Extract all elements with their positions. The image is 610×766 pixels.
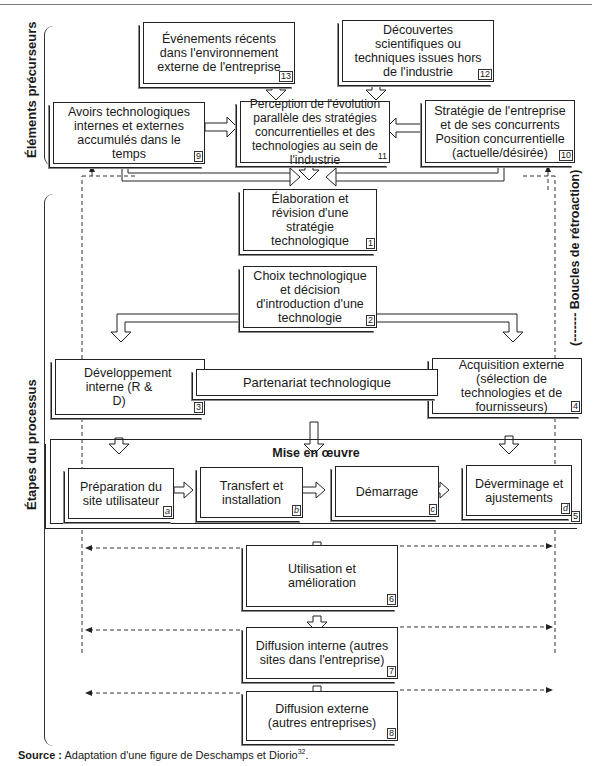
box-company-strategy: Stratégie de l'entreprise et de ses conc…: [425, 100, 575, 163]
box-number: 8: [387, 728, 396, 739]
box-number: d: [561, 503, 570, 514]
box-internal-development: Développement interne (R & D) 3: [55, 359, 205, 415]
precursors-brace: [44, 26, 53, 166]
source-end: .: [306, 749, 309, 761]
box-technological-assets: Avoirs technologiques internes et extern…: [53, 102, 205, 164]
box-number: 12: [478, 69, 492, 80]
box-number: 4: [571, 401, 580, 412]
box-startup: Démarrage c: [335, 466, 439, 517]
box-number: b: [292, 505, 301, 516]
box-recent-events: Événements récents dans l'environnement …: [143, 22, 295, 84]
box-number: 2: [366, 315, 375, 326]
box-text: Acquisition externe (sélection de techno…: [444, 358, 579, 414]
box-text: Diffusion interne (autres sites dans l'e…: [253, 639, 391, 667]
box-number: 7: [387, 666, 396, 677]
box-number: 6: [387, 594, 396, 605]
box-text: Stratégie de l'entreprise et de ses conc…: [430, 104, 570, 160]
box-text: Transfert et installation: [205, 479, 298, 507]
box-number: c: [429, 504, 438, 515]
box-technology-choice: Choix technologique et décision d'introd…: [243, 266, 377, 328]
source-note: Source : Adaptation d'une figure de Desc…: [18, 748, 309, 761]
feedback-loops-label: (------- Boucles de rétroaction): [568, 170, 582, 346]
box-text: Découvertes scientifiques ou techniques …: [353, 23, 483, 79]
precursors-label: Éléments précurseurs: [24, 21, 39, 158]
box-scientific-discoveries: Découvertes scientifiques ou techniques …: [342, 20, 494, 82]
box-text: Événements récents dans l'environnement …: [154, 32, 284, 74]
box-number: 11: [377, 152, 388, 161]
box-text: Avoirs technologiques internes et extern…: [64, 105, 194, 161]
box-number: 10: [559, 150, 573, 161]
box-text: Diffusion externe (autres entreprises): [267, 702, 377, 730]
box-text: Élaboration et révision d'une stratégie …: [250, 192, 370, 248]
box-number: 5: [571, 511, 580, 522]
box-external-diffusion: Diffusion externe (autres entreprises) 8: [246, 691, 398, 741]
box-text: Déverminage et ajustements: [471, 477, 567, 505]
box-number: 9: [194, 151, 203, 162]
box-technology-partnership: Partenariat technologique: [196, 369, 438, 396]
box-site-preparation: Préparation du site utilisateur a: [68, 468, 174, 519]
box-number: 3: [194, 402, 203, 413]
box-debugging-adjustments: Déverminage et ajustements d: [466, 465, 572, 516]
box-number: a: [163, 506, 172, 517]
box-use-improvement: Utilisation et amélioration 6: [246, 545, 398, 607]
box-internal-diffusion: Diffusion interne (autres sites dans l'e…: [246, 627, 398, 679]
box-number: 1: [366, 238, 375, 249]
box-number: 13: [279, 71, 293, 82]
box-strategy-elaboration: Élaboration et révision d'une stratégie …: [243, 189, 377, 251]
box-external-acquisition: Acquisition externe (sélection de techno…: [432, 358, 582, 414]
box-text: Démarrage: [356, 485, 419, 499]
box-text: Partenariat technologique: [243, 376, 391, 390]
box-text: Perception de l'évolution parallèle des …: [244, 97, 386, 167]
source-footnote-ref: 32: [298, 748, 306, 755]
source-text: Adaptation d'une figure de Deschamps et …: [62, 749, 298, 761]
box-transfer-installation: Transfert et installation b: [200, 467, 303, 518]
source-label: Source :: [18, 749, 62, 761]
box-text: Préparation du site utilisateur: [73, 480, 169, 508]
box-text: Utilisation et amélioration: [287, 562, 357, 590]
box-perception: Perception de l'évolution parallèle des …: [240, 101, 390, 163]
implementation-title: Mise en œuvre: [51, 446, 581, 460]
box-text: Développement interne (R & D): [84, 366, 154, 408]
process-steps-label: Étapes du processus: [24, 379, 39, 510]
box-text: Choix technologique et décision d'introd…: [250, 269, 370, 325]
